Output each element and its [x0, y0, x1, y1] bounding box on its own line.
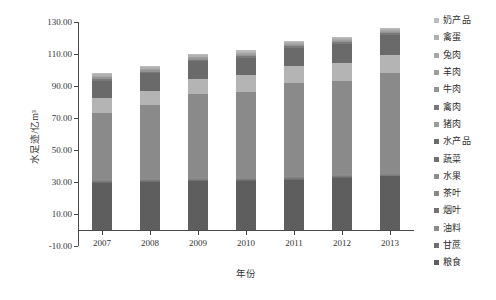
bar-stack [380, 28, 400, 230]
legend-label: 禽肉 [443, 103, 462, 112]
x-tick-label: 2009 [189, 238, 207, 248]
legend-label: 水果 [443, 172, 462, 181]
legend-item[interactable]: 兔肉 [434, 47, 496, 64]
bar-segment[interactable] [92, 113, 112, 179]
legend-label: 禽蛋 [443, 33, 462, 42]
bar-segment[interactable] [140, 91, 160, 105]
legend-swatch-icon [434, 174, 439, 179]
bar-segment[interactable] [140, 105, 160, 178]
bar-segment[interactable] [332, 178, 352, 230]
bar-segment[interactable] [332, 81, 352, 175]
y-tick-label: 130.00 [26, 17, 72, 27]
y-tick-label: 110.00 [26, 49, 72, 59]
bar-segment[interactable] [380, 35, 400, 55]
legend-swatch-icon [434, 191, 439, 196]
legend-swatch-icon [434, 208, 439, 213]
legend-swatch-icon [434, 243, 439, 248]
bar-stack [140, 66, 160, 230]
bar-segment[interactable] [188, 181, 208, 230]
legend-label: 兔肉 [443, 51, 462, 60]
legend-item[interactable]: 水产品 [434, 133, 496, 150]
bar-segment[interactable] [236, 92, 256, 177]
bar-segment[interactable] [140, 73, 160, 91]
legend-item[interactable]: 水果 [434, 168, 496, 185]
legend-item[interactable]: 奶产品 [434, 12, 496, 29]
bar-segment[interactable] [284, 180, 304, 230]
y-tick-mark [74, 182, 78, 183]
legend-label: 粮食 [443, 258, 462, 267]
y-tick-label: 50.00 [26, 145, 72, 155]
y-tick-mark [74, 54, 78, 55]
x-tick-mark [294, 231, 295, 235]
legend-item[interactable]: 甘蔗 [434, 237, 496, 254]
legend-swatch-icon [434, 35, 439, 40]
bar-segment[interactable] [188, 79, 208, 94]
legend-swatch-icon [434, 157, 439, 162]
legend-item[interactable]: 油料 [434, 220, 496, 237]
legend-item[interactable]: 禽肉 [434, 98, 496, 115]
legend-item[interactable]: 猪肉 [434, 116, 496, 133]
legend-item[interactable]: 烟叶 [434, 202, 496, 219]
bar-segment[interactable] [92, 98, 112, 113]
y-tick-label: 70.00 [26, 113, 72, 123]
bar-segment[interactable] [140, 182, 160, 230]
x-tick-mark [198, 231, 199, 235]
y-tick-label: -10.00 [26, 241, 72, 251]
x-axis-title: 年份 [186, 266, 306, 280]
legend-swatch-icon [434, 53, 439, 58]
bar-segment[interactable] [332, 44, 352, 63]
legend-label: 茶叶 [443, 189, 462, 198]
y-tick-label: 30.00 [26, 177, 72, 187]
bar-segment[interactable] [92, 183, 112, 230]
legend-label: 猪肉 [443, 120, 462, 129]
legend-label: 油料 [443, 224, 462, 233]
legend-swatch-icon [434, 260, 439, 265]
legend-swatch-icon [434, 122, 439, 127]
x-tick-mark [150, 231, 151, 235]
legend-swatch-icon [434, 18, 439, 23]
y-tick-mark [74, 150, 78, 151]
bar-segment[interactable] [236, 58, 256, 76]
stacked-bar-chart: 水足迹/亿m³ 130.00110.0090.0070.0050.0030.00… [0, 0, 496, 300]
legend-label: 奶产品 [443, 16, 471, 25]
bar-stack [92, 73, 112, 230]
bar-segment[interactable] [92, 81, 112, 99]
legend-item[interactable]: 羊肉 [434, 64, 496, 81]
legend-swatch-icon [434, 139, 439, 144]
legend-item[interactable]: 牛肉 [434, 81, 496, 98]
y-tick-mark [74, 86, 78, 87]
y-tick-mark [74, 22, 78, 23]
legend-label: 牛肉 [443, 85, 462, 94]
legend-item[interactable]: 蔬菜 [434, 150, 496, 167]
bar-segment[interactable] [380, 73, 400, 172]
bar-segment[interactable] [188, 61, 208, 79]
bar-stack [188, 54, 208, 230]
legend-label: 烟叶 [443, 206, 462, 215]
y-tick-label: 10.00 [26, 209, 72, 219]
bar-segment[interactable] [332, 63, 352, 81]
plot-area [78, 22, 414, 230]
bar-segment[interactable] [380, 55, 400, 73]
chart-legend: 奶产品禽蛋兔肉羊肉牛肉禽肉猪肉水产品蔬菜水果茶叶烟叶油料甘蔗粮食 [434, 12, 496, 271]
legend-item[interactable]: 茶叶 [434, 185, 496, 202]
y-tick-mark [74, 118, 78, 119]
bar-segment[interactable] [284, 66, 304, 83]
bar-segment[interactable] [236, 75, 256, 92]
legend-item[interactable]: 禽蛋 [434, 29, 496, 46]
x-tick-label: 2010 [237, 238, 255, 248]
x-tick-mark [102, 231, 103, 235]
y-axis-tick-labels: 130.00110.0090.0070.0050.0030.0010.00-10… [26, 0, 72, 300]
bar-segment[interactable] [284, 83, 304, 176]
x-tick-label: 2012 [333, 238, 351, 248]
y-tick-label: 90.00 [26, 81, 72, 91]
bar-stack [332, 37, 352, 230]
bar-stack [284, 41, 304, 230]
bar-segment[interactable] [380, 176, 400, 230]
x-tick-mark [390, 231, 391, 235]
bar-stack [236, 50, 256, 230]
legend-item[interactable]: 粮食 [434, 254, 496, 271]
bar-segment[interactable] [188, 94, 208, 177]
bar-segment[interactable] [284, 48, 304, 66]
legend-swatch-icon [434, 105, 439, 110]
bar-segment[interactable] [236, 181, 256, 230]
